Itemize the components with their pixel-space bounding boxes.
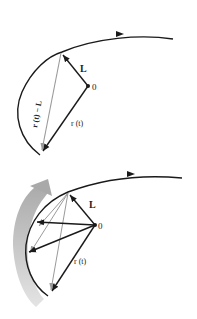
orbit-curve — [18, 37, 173, 155]
label-L: L — [89, 199, 96, 210]
label-origin: 0 — [92, 82, 97, 92]
diagram-canvas: L 0 r (t) r (t) − L L 0 r (t) — [0, 0, 197, 319]
bottom-diagram: L 0 r (t) — [13, 171, 182, 307]
origin-point — [86, 84, 90, 88]
vector-r-arrow — [37, 222, 95, 225]
difference-vector-arrow — [42, 53, 61, 150]
top-diagram: L 0 r (t) r (t) − L — [18, 31, 173, 155]
label-origin: 0 — [98, 221, 103, 231]
label-L: L — [80, 63, 87, 74]
direction-arrowhead-icon — [116, 31, 124, 37]
origin-point — [93, 223, 97, 227]
label-r: r (t) — [74, 257, 87, 266]
direction-arrowhead-icon — [127, 171, 135, 177]
label-r-minus-L: r (t) − L — [30, 100, 44, 128]
label-r: r (t) — [71, 119, 84, 128]
